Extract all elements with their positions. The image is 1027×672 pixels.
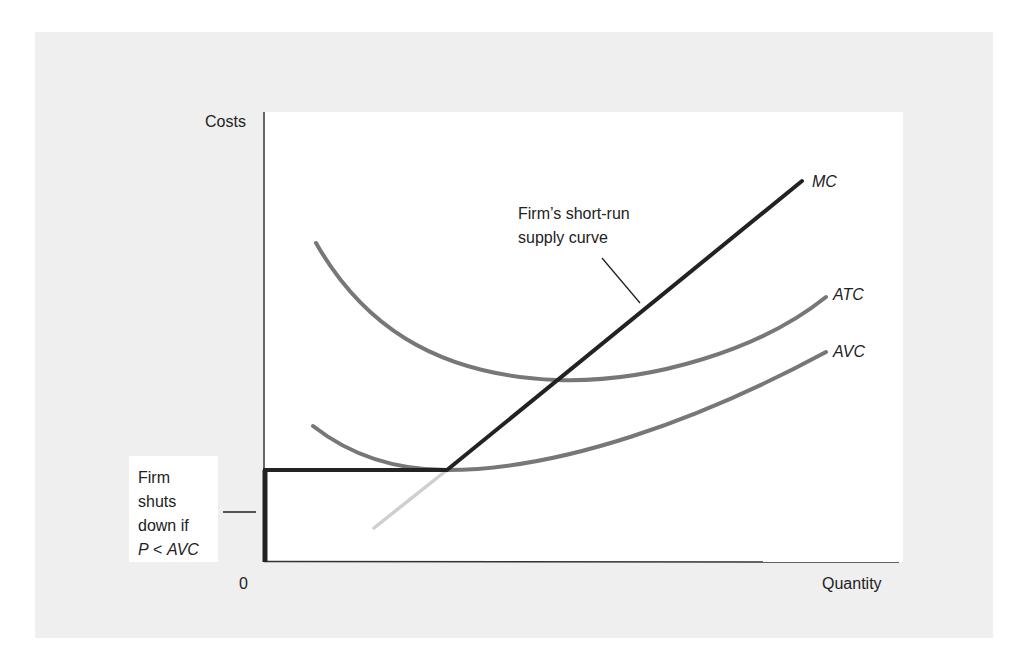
shutdown-line3: down if xyxy=(138,514,199,538)
origin-label: 0 xyxy=(239,576,248,592)
avc-label: AVC xyxy=(833,344,865,360)
avc-symbol: AVC xyxy=(167,541,199,558)
shutdown-annotation: Firm shuts down if P < AVC xyxy=(138,466,199,562)
shutdown-line4: P < AVC xyxy=(138,538,199,562)
supply-curve-annotation: Firm’s short-run supply curve xyxy=(518,202,630,250)
x-axis-label: Quantity xyxy=(822,576,882,592)
supply-annotation-line1: Firm’s short-run xyxy=(518,202,630,226)
cost-curves-chart xyxy=(0,0,1027,672)
x-axis xyxy=(264,562,899,563)
less-than-operator: < xyxy=(149,541,167,558)
shutdown-line2: shuts xyxy=(138,490,199,514)
atc-curve xyxy=(316,243,826,380)
supply-annotation-line2: supply curve xyxy=(518,226,630,250)
shutdown-line1: Firm xyxy=(138,466,199,490)
atc-label: ATC xyxy=(833,287,864,303)
y-axis-label: Costs xyxy=(205,114,246,130)
price-symbol: P xyxy=(138,541,149,558)
supply-annotation-leader xyxy=(602,258,640,303)
mc-below-avc-segment xyxy=(374,470,447,528)
mc-label: MC xyxy=(812,174,837,190)
